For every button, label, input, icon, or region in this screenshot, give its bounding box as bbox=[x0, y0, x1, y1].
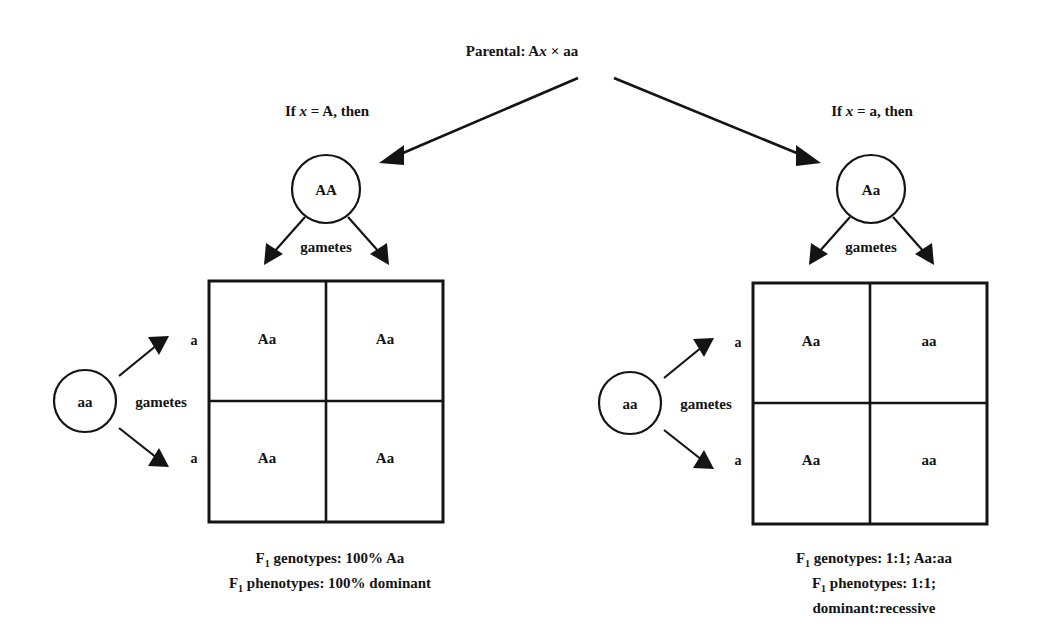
right-caption-0-prefix: F bbox=[796, 550, 805, 566]
left-condition-label: If x = A, then bbox=[285, 103, 370, 119]
right-caption-1-prefix: F bbox=[812, 575, 821, 591]
left-punnett-cell-0-1: Aa bbox=[376, 331, 395, 347]
right-row-label-0: a bbox=[735, 335, 742, 350]
left-punnett-cell-1-1: Aa bbox=[376, 450, 395, 466]
punnett-square-diagram: Parental: Ax×aa If x = A, then AA gamete… bbox=[0, 0, 1044, 640]
left-tester-genotype: aa bbox=[78, 394, 94, 410]
genetics-testcross-figure: Parental: Ax×aa If x = A, then AA gamete… bbox=[0, 0, 1044, 640]
left-caption-0-rest: genotypes: 100% Aa bbox=[270, 550, 405, 566]
left-row-label-1: a bbox=[191, 451, 198, 466]
right-parent-gametes-label: gametes bbox=[845, 239, 897, 255]
right-parent-genotype: Aa bbox=[862, 182, 881, 198]
right-punnett-cell-0-1: aa bbox=[922, 333, 938, 349]
right-caption-line-2: dominant:recessive bbox=[812, 600, 935, 616]
left-condition-prefix: If bbox=[285, 103, 300, 119]
right-caption-0-rest: genotypes: 1:1; Aa:aa bbox=[810, 550, 953, 566]
right-punnett-cell-0-0: Aa bbox=[802, 333, 821, 349]
right-condition-suffix: = a, then bbox=[853, 103, 913, 119]
parental-operator: × bbox=[551, 43, 560, 59]
parental-variable: x bbox=[538, 43, 547, 59]
right-condition-label: If x = a, then bbox=[831, 103, 913, 119]
left-tester-gametes-label: gametes bbox=[135, 394, 187, 410]
left-parent-genotype: AA bbox=[315, 182, 337, 198]
parental-prefix: Parental: A bbox=[466, 43, 540, 59]
left-punnett-cell-1-0: Aa bbox=[258, 450, 277, 466]
left-row-label-0: a bbox=[191, 333, 198, 348]
right-caption-1-rest: phenotypes: 1:1; bbox=[826, 575, 936, 591]
left-caption-0-prefix: F bbox=[256, 550, 265, 566]
right-punnett-cell-1-1: aa bbox=[922, 452, 938, 468]
right-tester-genotype: aa bbox=[623, 396, 639, 412]
right-punnett-cell-1-0: Aa bbox=[802, 452, 821, 468]
right-row-label-1: a bbox=[735, 453, 742, 468]
right-condition-prefix: If bbox=[831, 103, 846, 119]
left-caption-1-rest: phenotypes: 100% dominant bbox=[243, 575, 431, 591]
left-punnett-cell-0-0: Aa bbox=[258, 331, 277, 347]
left-condition-suffix: = A, then bbox=[307, 103, 370, 119]
right-tester-gametes-label: gametes bbox=[680, 396, 732, 412]
right-caption-2-rest: dominant:recessive bbox=[812, 600, 935, 616]
left-parent-gametes-label: gametes bbox=[300, 239, 352, 255]
left-caption-1-prefix: F bbox=[229, 575, 238, 591]
parental-other-parent: aa bbox=[563, 43, 579, 59]
